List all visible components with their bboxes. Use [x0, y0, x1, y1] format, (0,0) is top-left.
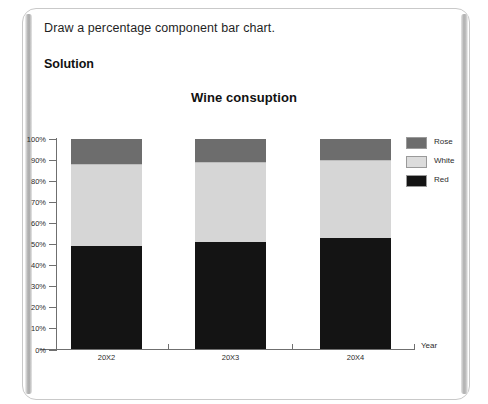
legend-label-red: Red [434, 175, 449, 184]
y-axis-tick-label: 70% [2, 197, 46, 206]
y-axis-tick-label: 0% [2, 345, 46, 354]
x-axis-category-label: 20X3 [222, 353, 240, 362]
scanned-page: Draw a percentage component bar chart. S… [0, 0, 488, 404]
percentage-component-bar-chart: 0%10%20%30%40%50%60%70%80%90%100% 20X220… [0, 0, 488, 404]
bar-segment-white [71, 164, 142, 246]
bar-segment-red [320, 238, 391, 350]
bar-segment-white [195, 162, 266, 242]
y-axis-tick [49, 286, 57, 287]
x-axis-category-label: 20X2 [98, 353, 116, 362]
y-axis-tick [49, 223, 57, 224]
legend-swatch-white [406, 156, 427, 168]
legend-swatch-rose [406, 137, 427, 149]
y-axis-tick-label: 20% [2, 303, 46, 312]
y-axis-tick-label: 90% [2, 155, 46, 164]
bar-segment-white [320, 160, 391, 238]
y-axis-tick [49, 307, 57, 308]
y-axis-tick-label: 40% [2, 261, 46, 270]
bar-20X2 [71, 139, 142, 350]
bar-20X3 [195, 139, 266, 350]
bar-segment-rose [195, 139, 266, 162]
y-axis-tick-label: 80% [2, 176, 46, 185]
y-axis-tick-label: 30% [2, 282, 46, 291]
legend-label-white: White [434, 156, 454, 165]
y-axis-tick [49, 160, 57, 161]
bar-segment-red [71, 246, 142, 349]
y-axis-tick [49, 350, 57, 351]
x-axis-category-label: 20X4 [347, 353, 365, 362]
y-axis-tick-label: 50% [2, 240, 46, 249]
legend-label-rose: Rose [434, 137, 453, 146]
y-axis-tick-label: 100% [2, 134, 46, 143]
bar-segment-rose [71, 139, 142, 164]
legend-swatch-red [406, 175, 427, 187]
x-axis-title: Year [421, 341, 437, 350]
y-axis-tick [49, 181, 57, 182]
bar-segment-red [195, 242, 266, 350]
x-axis-tick [292, 344, 293, 350]
y-axis-tick [49, 328, 57, 329]
y-axis-tick-label: 10% [2, 324, 46, 333]
x-axis-tick [414, 344, 415, 350]
y-axis-tick-label: 60% [2, 218, 46, 227]
y-axis-tick [49, 265, 57, 266]
y-axis-tick [49, 139, 57, 140]
bar-segment-rose [320, 139, 391, 160]
bar-20X4 [320, 139, 391, 350]
x-axis-tick [168, 344, 169, 350]
y-axis-tick [49, 244, 57, 245]
y-axis-tick [49, 202, 57, 203]
